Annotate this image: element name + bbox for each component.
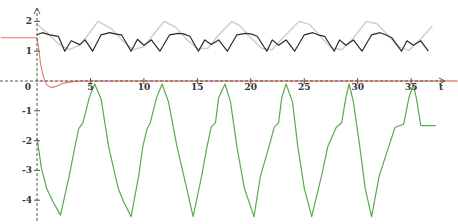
y-tick-label: 1 <box>26 46 32 56</box>
x-tick-label: 5 <box>87 82 93 92</box>
x-tick-label: 15 <box>191 82 204 92</box>
y-tick-label: -2 <box>22 136 32 146</box>
y-tick-label: 2 <box>26 16 32 26</box>
x-tick-label: 25 <box>298 82 311 92</box>
x-tick-label: 30 <box>351 82 364 92</box>
green-response-curve <box>37 84 436 217</box>
black-oscillation-curve <box>37 33 428 52</box>
red-transient-curve <box>1 38 457 88</box>
x-axis-label: t <box>439 82 444 92</box>
y-tick-label: -1 <box>22 106 32 116</box>
chart: 05101520253035t21-1-2-3-4 <box>0 0 458 224</box>
y-tick-label: -3 <box>22 165 32 175</box>
gray-sinusoid-curve <box>37 21 433 50</box>
axes: 05101520253035t21-1-2-3-4 <box>0 8 445 222</box>
x-tick-label: 20 <box>245 82 258 92</box>
plot-curves <box>1 21 458 216</box>
x-tick-label: 10 <box>138 82 151 92</box>
x-tick-label: 35 <box>405 82 418 92</box>
x-tick-label: 0 <box>25 82 31 92</box>
y-tick-label: -4 <box>22 195 32 205</box>
